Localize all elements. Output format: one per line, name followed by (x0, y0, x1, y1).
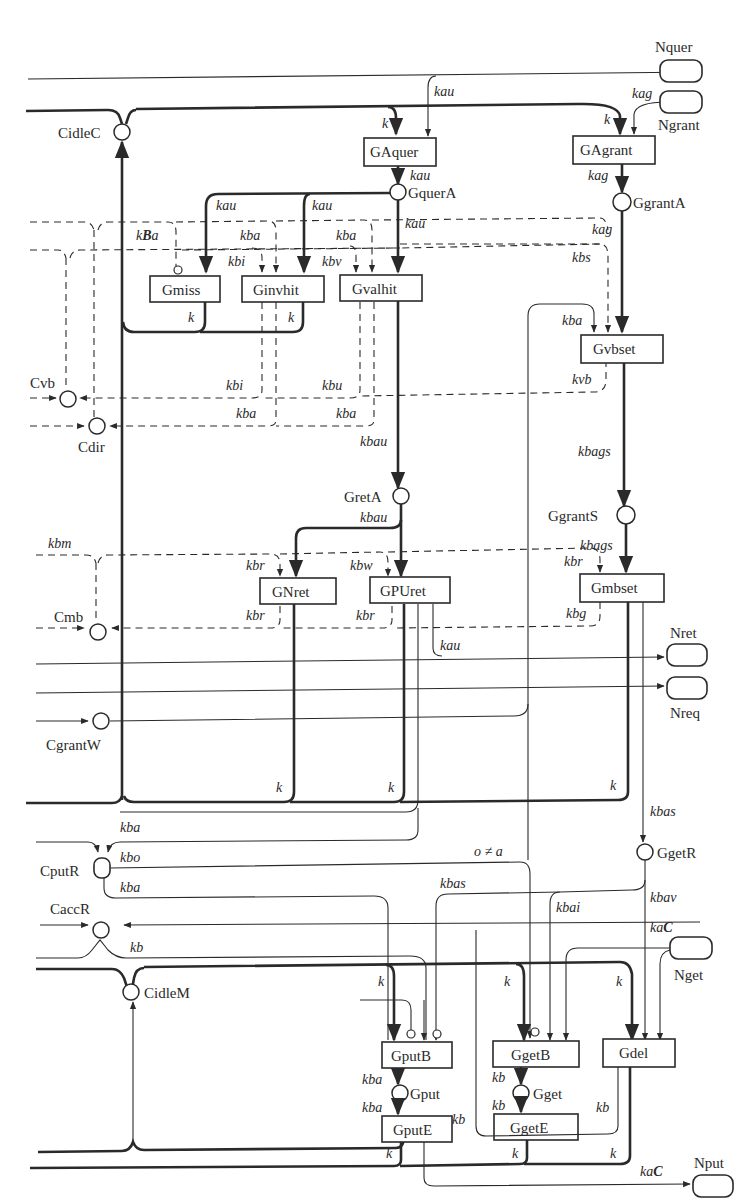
arc-label: kba (562, 313, 582, 328)
arc-label: k (378, 974, 385, 989)
k-return-bus (26, 602, 628, 803)
arc-label: k (610, 778, 617, 793)
label-gnret: GNret (272, 584, 310, 600)
arc-label: kag (588, 168, 608, 183)
arc-label: k (610, 1146, 617, 1161)
label-gget: Gget (533, 1086, 563, 1102)
label-gaquer: GAquer (370, 144, 418, 160)
label-cgrantw: CgrantW (46, 737, 102, 753)
arc-label: kba (362, 1100, 382, 1115)
label-nquer: Nquer (655, 39, 693, 55)
arc-label: kbas (440, 876, 466, 891)
arc-label: kbv (322, 254, 342, 269)
place-caccr (93, 922, 109, 938)
arc-label: kbs (572, 250, 591, 265)
arc-label: kba (236, 406, 256, 421)
label-nreq: Nreq (670, 705, 700, 721)
label-gquera: GquerA (408, 185, 456, 201)
label-cputr: CputR (40, 863, 79, 879)
arc-label: kau (405, 216, 425, 231)
label-cmb: Cmb (54, 609, 83, 625)
place-ggetr (637, 844, 653, 860)
arc-label: k (276, 780, 283, 795)
arc-label: kb (452, 1112, 465, 1127)
arc-label: kba (336, 228, 356, 243)
arc-label: kbi (226, 378, 243, 393)
label-gpute: GputE (393, 1122, 432, 1138)
arc-label: kba (362, 1072, 382, 1087)
arc-label: kbr (246, 608, 265, 623)
arc-label: kba (120, 880, 140, 895)
dashed-returns-cvb-cdir (30, 302, 606, 426)
label-gmbset: Gmbset (591, 580, 638, 596)
arc-label: k (382, 116, 389, 131)
arc-label: kbw (350, 558, 373, 573)
label-caccr: CaccR (50, 901, 90, 917)
petri-net-diagram: CidleC GAquer k kau GAgrant k kag Nquer … (0, 0, 749, 1199)
arc-label: kbm (48, 536, 71, 551)
label-gputb: GputB (391, 1048, 431, 1064)
label-gpuret: GPUret (380, 583, 427, 599)
arc-label: k (604, 112, 611, 127)
place-cgrantw (93, 713, 109, 729)
arc-label: o ≠ a (474, 844, 503, 859)
arc-label: k (512, 1146, 519, 1161)
place-gput (392, 1085, 408, 1101)
ggetr-arcs (436, 860, 645, 1040)
arc-label: kba (120, 820, 140, 835)
label-ggetb: GgetB (511, 1047, 550, 1063)
arc-label: k (288, 310, 295, 325)
arc-label: kau (434, 84, 454, 99)
arc-label: kbo (120, 850, 140, 865)
arc-label: kbr (564, 554, 583, 569)
arc-label: kb (492, 1098, 505, 1113)
arc-label: kau (410, 168, 430, 183)
label-gmiss: Gmiss (162, 282, 201, 298)
arc-label: k (388, 780, 395, 795)
label-gput: Gput (410, 1086, 441, 1102)
inhibitor-ggetb (531, 1028, 539, 1036)
port-nget (670, 937, 712, 959)
arc-label: kb (130, 940, 143, 955)
label-ggranta: GgrantA (633, 195, 686, 211)
arc-label: kbu (322, 378, 342, 393)
place-ggrants (617, 506, 635, 524)
place-cmb (90, 624, 106, 640)
label-ggrants: GgrantS (548, 508, 598, 524)
label-ginvhit: Ginvhit (253, 282, 300, 298)
arc-label: kbr (356, 608, 375, 623)
cidlem-bus (36, 962, 632, 1040)
place-cputr (94, 858, 110, 878)
label-nret: Nret (670, 625, 697, 641)
cputr-arcs (36, 808, 700, 1040)
arc-label: kbav (650, 890, 677, 905)
arc-label: kbg (566, 606, 586, 621)
label-cdir: Cdir (78, 439, 105, 455)
place-ggranta (613, 193, 631, 211)
label-cvb: Cvb (30, 375, 55, 391)
place-cidlec (114, 124, 130, 140)
arc-label: kb (492, 1070, 505, 1085)
place-cidlem (123, 984, 139, 1000)
label-nget: Nget (674, 967, 704, 983)
arc-label-kba-bold: kBa (136, 228, 159, 243)
label-ggetr: GgetR (657, 845, 696, 861)
port-nreq (667, 677, 707, 699)
arc-label: kag (592, 222, 612, 237)
label-gvalhit: Gvalhit (352, 281, 398, 297)
port-nquer (660, 60, 702, 82)
inhibitor-gmiss (174, 266, 182, 274)
label-ngrant: Ngrant (658, 117, 700, 133)
arc-label: kvb (572, 372, 591, 387)
arc-label: kba (336, 406, 356, 421)
label-gdel: Gdel (619, 1045, 648, 1061)
arc-label: kau (312, 198, 332, 213)
label-greta: GretA (344, 489, 382, 505)
place-cdir (89, 418, 105, 434)
port-nret (667, 644, 707, 666)
label-nput: Nput (694, 1155, 725, 1171)
arc-label: kbau (360, 510, 387, 525)
nret-nreq-lines (36, 604, 664, 812)
place-greta (393, 488, 409, 504)
arc-label: k (504, 974, 511, 989)
